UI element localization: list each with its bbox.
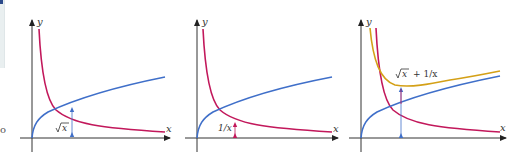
svg-text:+ 1/x: + 1/x bbox=[413, 69, 437, 79]
y-axis-label: y bbox=[201, 16, 208, 27]
svg-text:x: x bbox=[402, 69, 407, 79]
x-axis-label: x bbox=[166, 123, 172, 134]
svg-text:x: x bbox=[62, 123, 67, 133]
x-axis-label: x bbox=[333, 123, 339, 134]
y-axis-label: y bbox=[365, 16, 372, 27]
panel-2: y x 1/x bbox=[185, 16, 339, 152]
annotation-sum: x + 1/x bbox=[396, 69, 437, 79]
panel-1: y x x bbox=[20, 16, 172, 152]
sqrt-curve bbox=[32, 77, 165, 138]
chart-figure: y x x y x 1/x y x x + 1/x bbox=[0, 0, 520, 156]
panel-3: y x x + 1/x bbox=[349, 16, 506, 152]
y-axis-label: y bbox=[36, 16, 43, 27]
annotation-sqrt-x: x bbox=[56, 123, 69, 133]
x-axis-label: x bbox=[500, 122, 506, 133]
annotation-reciprocal: 1/x bbox=[218, 123, 232, 133]
